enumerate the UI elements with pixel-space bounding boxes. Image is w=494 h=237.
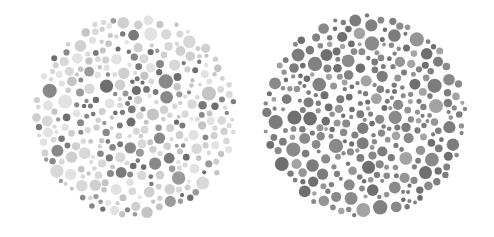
- dot: [330, 127, 335, 132]
- dot: [463, 107, 468, 112]
- dot: [329, 134, 334, 139]
- dot: [404, 133, 414, 143]
- dot: [283, 128, 288, 133]
- dot: [420, 134, 427, 141]
- dot: [378, 55, 385, 62]
- dot: [443, 164, 450, 171]
- dot: [435, 144, 443, 152]
- dot: [365, 99, 370, 104]
- dot: [405, 24, 411, 30]
- dot: [351, 131, 358, 138]
- dot: [414, 127, 420, 133]
- dot: [394, 74, 401, 81]
- dot: [431, 132, 435, 136]
- dot: [408, 116, 414, 122]
- dot: [310, 130, 315, 135]
- dot: [433, 178, 440, 185]
- dot: [362, 161, 375, 174]
- dot: [365, 36, 379, 50]
- dot: [378, 17, 385, 24]
- dot: [401, 93, 406, 98]
- dot: [299, 133, 310, 144]
- dot: [343, 87, 347, 91]
- dot: [281, 70, 286, 75]
- dot: [377, 71, 388, 82]
- dot: [312, 78, 326, 92]
- dot: [321, 49, 333, 61]
- dot: [392, 82, 397, 87]
- dot: [435, 167, 442, 174]
- dot: [394, 125, 400, 131]
- dot: [300, 63, 306, 69]
- dot: [372, 83, 376, 87]
- dot: [387, 56, 392, 61]
- dot: [385, 99, 390, 104]
- dot: [266, 141, 274, 149]
- dot: [377, 146, 387, 156]
- dot: [387, 127, 392, 132]
- dot: [324, 127, 328, 131]
- dot: [460, 131, 464, 135]
- dot: [281, 107, 285, 111]
- dot: [346, 207, 351, 212]
- dot: [415, 158, 421, 164]
- dot: [333, 18, 337, 22]
- dot: [365, 19, 377, 31]
- dot: [287, 111, 301, 125]
- dot: [316, 108, 321, 113]
- dot: [408, 92, 413, 97]
- dot: [431, 118, 439, 126]
- dot: [424, 182, 433, 191]
- dot: [271, 134, 278, 141]
- dot: [406, 190, 410, 194]
- dot: [298, 99, 302, 103]
- dot: [293, 42, 298, 47]
- dot: [293, 178, 298, 183]
- dot: [419, 88, 427, 96]
- dot: [435, 127, 442, 134]
- dot: [273, 107, 277, 111]
- dot: [348, 41, 355, 48]
- dot: [390, 64, 395, 69]
- dot: [330, 83, 337, 90]
- dot: [346, 162, 351, 167]
- dot: [412, 164, 417, 169]
- dot: [385, 137, 391, 143]
- dot: [428, 68, 434, 74]
- dot: [385, 89, 390, 94]
- dot: [350, 84, 355, 89]
- dot: [306, 46, 315, 55]
- dot: [287, 170, 293, 176]
- dot: [413, 200, 417, 204]
- dot: [401, 123, 410, 132]
- dot: [311, 199, 316, 204]
- dot: [298, 168, 307, 177]
- dot: [399, 147, 404, 152]
- dot: [394, 173, 399, 178]
- dot: [377, 86, 385, 94]
- dot: [444, 99, 453, 108]
- dot-pattern-right: [0, 0, 494, 237]
- dot: [349, 115, 353, 119]
- dot: [340, 44, 345, 49]
- dot: [335, 154, 341, 160]
- dot: [390, 96, 394, 100]
- dot: [331, 164, 336, 169]
- dot: [391, 202, 402, 213]
- dot: [425, 153, 439, 167]
- dot: [341, 20, 346, 25]
- dot: [401, 198, 406, 203]
- dot: [320, 183, 326, 189]
- dot: [333, 48, 341, 56]
- dot: [427, 93, 433, 99]
- dot: [339, 177, 343, 181]
- dot: [400, 152, 413, 165]
- dot: [351, 48, 358, 55]
- dot: [374, 50, 379, 55]
- dot: [393, 100, 403, 110]
- dot: [310, 72, 315, 77]
- dot: [299, 126, 305, 132]
- color-plate-right: Plate 2 (dark background dots): [0, 0, 494, 237]
- dot: [443, 74, 455, 86]
- dot: [337, 32, 347, 42]
